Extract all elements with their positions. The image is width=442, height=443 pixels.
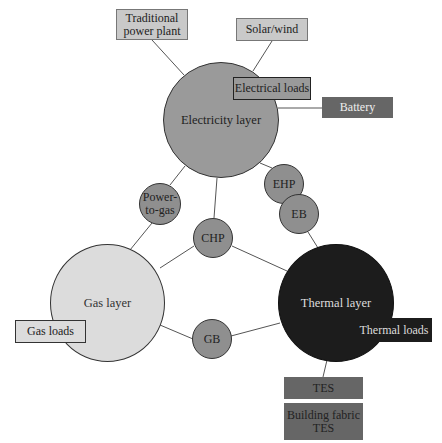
ehp-label: EHP — [273, 177, 296, 191]
power-to-gas-node: Power- to-gas — [139, 183, 181, 225]
eb-label: EB — [291, 207, 306, 221]
electricity-layer-label: Electricity layer — [181, 113, 261, 127]
tes-label: TES — [313, 382, 334, 395]
gas-layer-node: Gas layer — [50, 244, 165, 362]
thermal-loads-box: Thermal loads — [356, 318, 432, 342]
energy-hub-diagram: Electricity layer Gas layer Thermal laye… — [0, 0, 442, 443]
building-fabric-tes-box: Building fabric TES — [284, 403, 363, 440]
gb-node: GB — [192, 319, 232, 359]
thermal-loads-label: Thermal loads — [360, 324, 429, 337]
gas-layer-label: Gas layer — [84, 296, 132, 310]
eb-node: EB — [279, 194, 319, 234]
solar-wind-label: Solar/wind — [246, 23, 299, 36]
chp-label: CHP — [201, 231, 224, 245]
gas-loads-box: Gas loads — [15, 320, 86, 343]
traditional-power-plant-box: Traditional power plant — [116, 9, 188, 40]
traditional-power-plant-line1: Traditional — [126, 12, 179, 25]
chp-node: CHP — [193, 218, 233, 258]
electrical-loads-label: Electrical loads — [235, 82, 309, 95]
traditional-power-plant-line2: power plant — [124, 25, 181, 38]
tes-box: TES — [284, 377, 363, 399]
thermal-layer-node: Thermal layer — [278, 244, 394, 362]
battery-box: Battery — [322, 97, 393, 118]
electrical-loads-box: Electrical loads — [233, 77, 311, 100]
building-fabric-tes-line2: TES — [313, 422, 334, 435]
building-fabric-tes-line1: Building fabric — [287, 409, 360, 422]
battery-label: Battery — [340, 101, 375, 114]
thermal-layer-label: Thermal layer — [301, 296, 371, 310]
gb-label: GB — [204, 332, 221, 346]
gas-loads-label: Gas loads — [27, 325, 74, 338]
solar-wind-box: Solar/wind — [236, 18, 308, 41]
power-to-gas-label-line2: to-gas — [145, 204, 174, 217]
